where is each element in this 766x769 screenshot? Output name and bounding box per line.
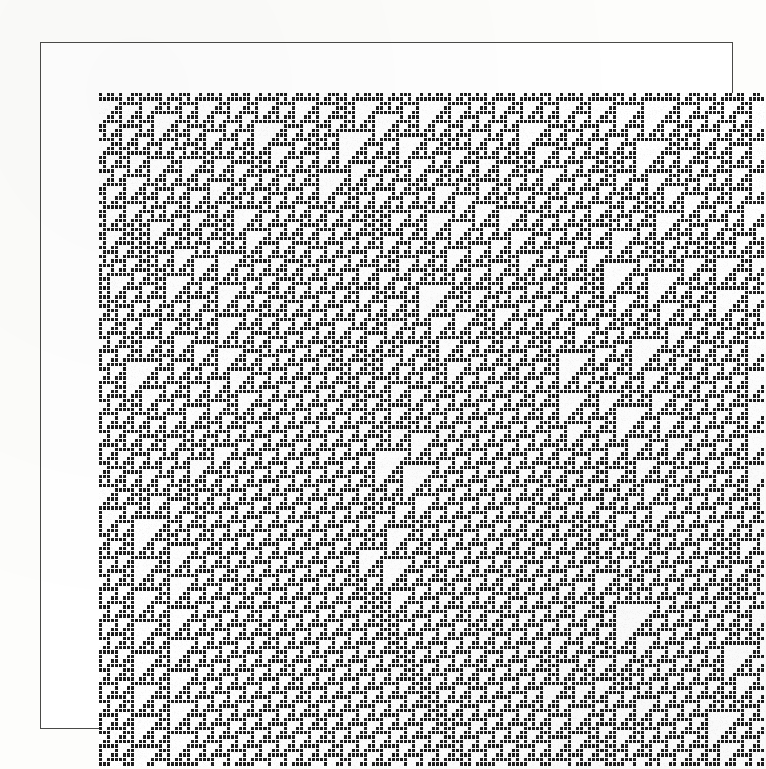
figure-root: Black and white space-time diagram of a … (0, 0, 766, 769)
cellular-automaton-space-time-canvas (99, 93, 765, 767)
plate-frame (40, 42, 733, 729)
